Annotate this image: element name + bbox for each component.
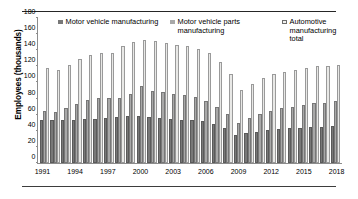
bar-series-2: [100, 53, 103, 163]
bar-group: [244, 18, 255, 163]
y-tick-label: 140: [24, 40, 36, 47]
x-tick-label: 1994: [67, 168, 83, 175]
y-tick-label: 100: [24, 72, 36, 79]
x-tick-label: 2006: [198, 168, 214, 175]
bar-chart-figure: Employees (thousands) Motor vehicle manu…: [0, 14, 358, 184]
bar-group: [179, 18, 190, 163]
y-tick-label: 60: [28, 104, 36, 111]
bar-group: [104, 18, 115, 163]
bar-series-2: [46, 68, 49, 163]
x-tick-label: 2015: [296, 168, 312, 175]
bar-group: [71, 18, 82, 163]
bar-series-2: [165, 43, 168, 163]
bar-series-2: [197, 49, 200, 163]
y-axis-title: Employees (thousands): [14, 5, 23, 145]
bar-groups: [38, 18, 342, 163]
x-tick-label: 2009: [231, 168, 247, 175]
bar-series-2: [337, 65, 340, 163]
bar-series-2: [294, 70, 297, 163]
y-tick-label: 80: [28, 88, 36, 95]
bar-group: [50, 18, 61, 163]
y-tick-label: 0: [32, 153, 36, 160]
bar-series-2: [240, 90, 243, 163]
bar-series-2: [111, 53, 114, 163]
bar-group: [319, 18, 330, 163]
bar-group: [276, 18, 287, 163]
bar-series-2: [219, 62, 222, 163]
y-tick-label: 160: [24, 24, 36, 31]
x-tick-label: 2012: [263, 168, 279, 175]
bar-group: [298, 18, 309, 163]
bar-series-2: [186, 46, 189, 163]
bar-group: [222, 18, 233, 163]
bar-group: [136, 18, 147, 163]
bar-group: [330, 18, 341, 163]
bar-series-2: [229, 74, 232, 163]
bar-series-2: [121, 46, 124, 163]
bar-group: [147, 18, 158, 163]
bar-group: [61, 18, 72, 163]
bar-series-2: [262, 78, 265, 163]
bar-group: [158, 18, 169, 163]
bar-group: [114, 18, 125, 163]
y-tick-label: 40: [28, 120, 36, 127]
y-tick-label: 180: [24, 8, 36, 15]
bar-group: [93, 18, 104, 163]
bar-series-2: [283, 72, 286, 163]
x-tick-label: 1991: [35, 168, 51, 175]
bar-series-2: [175, 45, 178, 163]
bar-series-2: [154, 41, 157, 163]
bar-group: [233, 18, 244, 163]
bar-group: [287, 18, 298, 163]
bar-series-2: [272, 74, 275, 163]
bar-series-2: [68, 65, 71, 163]
x-tick-label: 2003: [165, 168, 181, 175]
bar-series-2: [57, 70, 60, 163]
bar-series-2: [316, 66, 319, 163]
bottom-rule: [22, 186, 336, 187]
bar-series-2: [78, 59, 81, 163]
bar-series-2: [208, 53, 211, 163]
bar-group: [212, 18, 223, 163]
bar-series-2: [251, 84, 254, 163]
y-tick-label: 20: [28, 136, 36, 143]
bar-series-2: [326, 66, 329, 163]
x-tick-label: 2000: [133, 168, 149, 175]
x-tick-label: 2018: [329, 168, 345, 175]
bar-group: [125, 18, 136, 163]
bar-group: [168, 18, 179, 163]
bar-group: [309, 18, 320, 163]
bar-group: [255, 18, 266, 163]
top-rule: [22, 11, 336, 12]
bar-series-2: [305, 68, 308, 163]
bar-group: [190, 18, 201, 163]
x-tick-label: 1997: [100, 168, 116, 175]
x-axis-ticks: 1991199419972000200320062009201220152018: [37, 166, 342, 182]
bar-group: [201, 18, 212, 163]
bar-group: [265, 18, 276, 163]
y-tick-label: 120: [24, 56, 36, 63]
bar-series-2: [143, 40, 146, 163]
plot-area: 020406080100120140160180: [37, 18, 342, 164]
bar-series-2: [89, 55, 92, 163]
bar-group: [82, 18, 93, 163]
bar-group: [39, 18, 50, 163]
bar-series-2: [132, 42, 135, 163]
